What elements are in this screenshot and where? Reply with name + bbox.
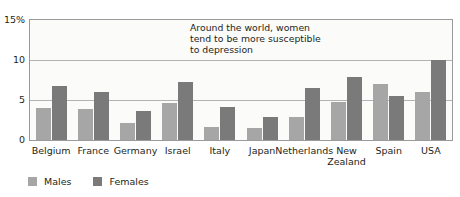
bar-group [72, 20, 114, 140]
depression-by-country-bar-chart: 051015% BelgiumFranceGermanyIsraelItalyJ… [0, 0, 460, 197]
legend-item-females[interactable]: Females [93, 177, 148, 187]
bar-females [220, 107, 235, 140]
bar-males [289, 117, 304, 140]
chart-legend: MalesFemales [28, 177, 149, 187]
bar-males [415, 92, 430, 140]
bar-males [204, 127, 219, 140]
bar-females [263, 117, 278, 140]
legend-swatch-icon [93, 177, 102, 186]
bar-females [94, 92, 109, 140]
x-axis: BelgiumFranceGermanyIsraelItalyJapanNeth… [30, 145, 452, 173]
bar-males [36, 108, 51, 140]
legend-swatch-icon [28, 177, 37, 186]
bar-females [136, 111, 151, 140]
y-axis: 051015% [0, 0, 29, 145]
y-axis-tick-label: 5 [19, 95, 25, 105]
legend-item-males[interactable]: Males [28, 177, 71, 187]
y-axis-tick-label: 15% [4, 15, 25, 25]
bar-females [389, 96, 404, 140]
bar-males [331, 102, 346, 140]
bar-males [78, 109, 93, 140]
bar-group [368, 20, 410, 140]
legend-label: Females [109, 177, 148, 187]
bar-group [30, 20, 72, 140]
bar-group [114, 20, 156, 140]
bar-group [410, 20, 452, 140]
x-axis-category-label: USA [394, 145, 460, 156]
bar-males [373, 84, 388, 140]
bar-females [178, 82, 193, 140]
y-axis-tick-label: 10 [13, 55, 25, 65]
bar-males [162, 103, 177, 140]
bar-males [120, 123, 135, 140]
bar-males [247, 128, 262, 140]
chart-annotation: Around the world, women tend to be more … [190, 22, 340, 56]
bar-females [347, 77, 362, 140]
legend-label: Males [44, 177, 71, 187]
bar-females [52, 86, 67, 140]
bar-females [305, 88, 320, 140]
y-axis-tick-label: 0 [19, 135, 25, 145]
bar-females [431, 60, 446, 140]
